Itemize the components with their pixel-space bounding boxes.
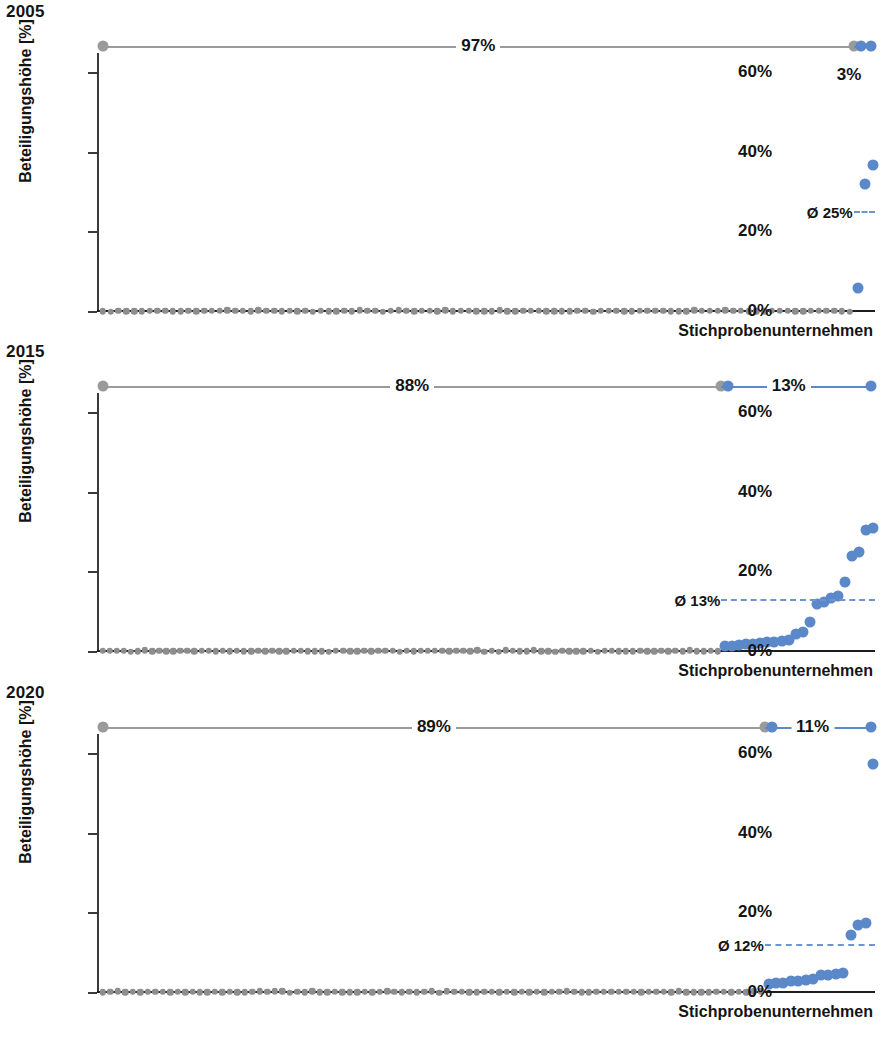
data-point-zero bbox=[586, 989, 593, 996]
data-point-zero bbox=[156, 648, 163, 655]
data-point-zero bbox=[467, 648, 474, 655]
data-point-zero bbox=[792, 308, 799, 315]
data-point bbox=[845, 930, 856, 941]
data-point-zero bbox=[432, 647, 439, 654]
zero-share-bracket-start-cap bbox=[98, 41, 109, 52]
data-point-zero bbox=[272, 988, 279, 995]
data-point-zero bbox=[227, 989, 234, 996]
data-point-zero bbox=[552, 648, 559, 655]
zero-share-bracket-start-cap bbox=[98, 722, 109, 733]
data-point-zero bbox=[304, 648, 311, 655]
data-point bbox=[852, 283, 863, 294]
data-point-zero bbox=[580, 648, 587, 655]
data-point-zero bbox=[331, 989, 338, 996]
data-point-zero bbox=[495, 648, 502, 655]
data-point-zero bbox=[309, 988, 316, 995]
data-point-zero bbox=[538, 648, 545, 655]
data-point-zero bbox=[193, 308, 200, 315]
data-point-zero bbox=[197, 989, 204, 996]
data-point-zero bbox=[224, 307, 231, 314]
data-point-zero bbox=[543, 308, 550, 315]
data-point-zero bbox=[216, 308, 223, 315]
data-point-zero bbox=[107, 308, 114, 315]
average-value-label: Ø 12% bbox=[718, 937, 765, 954]
data-point-zero bbox=[646, 988, 653, 995]
data-point-zero bbox=[184, 647, 191, 654]
data-point-zero bbox=[672, 648, 679, 655]
data-point-zero bbox=[149, 648, 156, 655]
data-points-layer: Ø 25% bbox=[97, 53, 875, 312]
y-axis-tick bbox=[88, 231, 97, 233]
y-axis-tick-label: 20% bbox=[738, 561, 772, 581]
plot-area: Ø 25% Stichprobenunternehmen 0%20%40%60% bbox=[97, 53, 875, 312]
data-point-zero bbox=[269, 647, 276, 654]
data-point-zero bbox=[502, 647, 509, 654]
data-point-zero bbox=[517, 648, 524, 655]
data-point-zero bbox=[446, 648, 453, 655]
average-dashed-line bbox=[765, 944, 875, 946]
data-point-zero bbox=[548, 989, 555, 996]
data-point-zero bbox=[699, 307, 706, 314]
data-point-zero bbox=[354, 648, 361, 655]
data-point-zero bbox=[107, 988, 114, 995]
data-point-zero bbox=[705, 989, 712, 996]
data-point-zero bbox=[121, 648, 128, 655]
data-point bbox=[804, 617, 815, 628]
data-point-zero bbox=[559, 308, 566, 315]
y-axis-tick-label: 40% bbox=[738, 482, 772, 502]
data-point-zero bbox=[389, 648, 396, 655]
x-axis-title: Stichprobenunternehmen bbox=[678, 662, 873, 680]
data-point-zero bbox=[665, 648, 672, 655]
data-point-zero bbox=[212, 988, 219, 995]
data-point-zero bbox=[458, 308, 465, 315]
data-point-zero bbox=[301, 989, 308, 996]
data-point-zero bbox=[403, 647, 410, 654]
data-point-zero bbox=[690, 989, 697, 996]
data-point-zero bbox=[170, 308, 177, 315]
data-point-zero bbox=[815, 308, 822, 315]
data-point-zero bbox=[444, 988, 451, 995]
data-point-zero bbox=[683, 308, 690, 315]
data-point-zero bbox=[660, 307, 667, 314]
y-axis-tick-label: 0% bbox=[747, 641, 772, 661]
data-point-zero bbox=[356, 307, 363, 314]
data-point-zero bbox=[128, 648, 135, 655]
data-point-zero bbox=[170, 648, 177, 655]
data-point bbox=[797, 627, 808, 638]
y-axis-tick bbox=[88, 571, 97, 573]
data-point-zero bbox=[644, 648, 651, 655]
data-point-zero bbox=[784, 307, 791, 314]
data-point-zero bbox=[201, 308, 208, 315]
data-point-zero bbox=[551, 308, 558, 315]
data-point-zero bbox=[369, 989, 376, 996]
y-axis-title: Beteiligungshöhe [%] bbox=[17, 0, 35, 211]
data-point-zero bbox=[713, 989, 720, 996]
data-point-zero bbox=[735, 989, 742, 996]
data-point bbox=[868, 523, 879, 534]
data-point-zero bbox=[220, 647, 227, 654]
data-point-zero bbox=[808, 308, 815, 315]
data-point bbox=[868, 758, 879, 769]
data-point-zero bbox=[333, 648, 340, 655]
data-point-zero bbox=[541, 989, 548, 996]
data-point-zero bbox=[668, 989, 675, 996]
data-point-zero bbox=[578, 989, 585, 996]
data-point-zero bbox=[414, 989, 421, 996]
data-point-zero bbox=[129, 988, 136, 995]
data-point-zero bbox=[831, 308, 838, 315]
data-point-zero bbox=[533, 988, 540, 995]
data-point-zero bbox=[174, 988, 181, 995]
data-point-zero bbox=[573, 648, 580, 655]
data-point-zero bbox=[698, 989, 705, 996]
y-axis-tick-label: 60% bbox=[738, 402, 772, 422]
y-axis-tick bbox=[88, 72, 97, 74]
data-point-zero bbox=[339, 989, 346, 996]
data-point-zero bbox=[706, 308, 713, 315]
plot-area: Ø 12% Stichprobenunternehmen 0%20%40%60% bbox=[97, 734, 875, 993]
data-point-zero bbox=[693, 648, 700, 655]
y-axis-tick bbox=[88, 311, 97, 313]
data-point-zero bbox=[177, 308, 184, 315]
data-point-zero bbox=[644, 307, 651, 314]
y-axis-tick bbox=[88, 833, 97, 835]
data-point-zero bbox=[488, 648, 495, 655]
